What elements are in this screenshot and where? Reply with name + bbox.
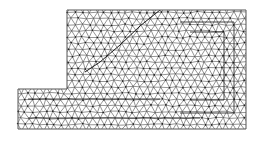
mesh-node — [208, 54, 210, 56]
mesh-node — [67, 111, 69, 113]
mesh-node — [139, 12, 141, 14]
mesh-node — [243, 31, 245, 33]
mesh-node — [68, 49, 70, 51]
mesh-node — [233, 99, 235, 101]
mesh-node — [146, 74, 148, 76]
mesh-node — [169, 124, 171, 126]
mesh-node — [139, 49, 141, 51]
mesh-node — [143, 68, 145, 70]
mesh-node — [117, 98, 119, 100]
mesh-node — [198, 50, 200, 52]
mesh-node — [122, 30, 124, 32]
mesh-node — [175, 111, 177, 113]
mesh-node — [77, 68, 79, 70]
mesh-node — [146, 61, 148, 63]
mesh-node — [176, 23, 178, 25]
mesh-node — [165, 79, 167, 81]
mesh-node — [178, 17, 180, 19]
mesh-node — [219, 36, 221, 38]
mesh-node — [225, 74, 227, 76]
mesh-node — [136, 31, 138, 33]
mesh-node — [201, 80, 203, 82]
mesh-node — [81, 112, 83, 114]
mesh-node — [103, 12, 105, 14]
mesh-node — [225, 123, 227, 125]
mesh-node — [197, 11, 199, 13]
mesh-node — [160, 74, 162, 76]
mesh-node — [53, 124, 55, 126]
mesh-node — [236, 92, 238, 94]
mesh-node — [110, 37, 112, 39]
mesh-node — [71, 68, 73, 70]
mesh-node — [197, 24, 199, 26]
mesh-node — [157, 92, 159, 94]
mesh-node — [92, 106, 94, 108]
mesh-node — [229, 80, 231, 82]
mesh-node — [205, 98, 207, 100]
mesh-node — [167, 11, 169, 13]
mesh-node — [215, 117, 217, 119]
mesh-node — [106, 93, 108, 95]
mesh-figure — [0, 0, 259, 142]
mesh-node — [222, 80, 224, 82]
mesh-node — [147, 36, 149, 38]
mesh-node — [179, 79, 181, 81]
mesh-node — [187, 17, 189, 19]
mesh-node — [103, 99, 105, 101]
mesh-node — [204, 87, 206, 89]
mesh-node — [24, 99, 26, 101]
mesh-node — [27, 105, 29, 107]
mesh-edge-path — [13, 5, 259, 142]
mesh-node — [182, 73, 184, 75]
mesh-node — [165, 42, 167, 44]
mesh-node — [143, 43, 145, 45]
mesh-node — [189, 24, 191, 26]
mesh-node — [192, 117, 194, 119]
mesh-node — [244, 42, 246, 44]
mesh-node — [229, 17, 231, 19]
mesh-node — [114, 67, 116, 69]
mesh-node — [132, 25, 134, 27]
mesh-node — [79, 54, 81, 56]
mesh-node — [161, 36, 163, 38]
mesh-node — [125, 99, 127, 101]
mesh-edges — [13, 5, 259, 142]
mesh-node — [190, 98, 192, 100]
mesh-node — [172, 18, 174, 20]
mesh-node — [27, 92, 29, 94]
mesh-node — [128, 92, 130, 94]
mesh-node — [139, 61, 141, 63]
mesh-node — [45, 98, 47, 100]
mesh-node — [128, 17, 130, 19]
mesh-node — [144, 81, 146, 83]
mesh-node — [99, 81, 101, 83]
mesh-node — [71, 93, 73, 95]
mesh-node — [225, 62, 227, 64]
mesh-node — [153, 12, 155, 14]
mesh-node — [204, 12, 206, 14]
mesh-node — [211, 25, 213, 27]
mesh-node — [198, 60, 200, 62]
mesh-node — [190, 86, 192, 88]
mesh-node — [237, 105, 239, 107]
mesh-node — [108, 42, 110, 44]
mesh-node — [214, 93, 216, 95]
mesh-node — [128, 68, 130, 70]
mesh-node — [136, 43, 138, 45]
mesh-node — [161, 23, 163, 25]
mesh-node — [183, 50, 185, 52]
mesh-node — [215, 31, 217, 33]
mesh-node — [212, 12, 214, 14]
mesh-node — [185, 55, 187, 57]
mesh-node — [124, 23, 126, 25]
mesh-node — [107, 55, 109, 57]
mesh-node — [104, 124, 106, 126]
mesh-node — [111, 12, 113, 14]
mesh-node — [169, 87, 171, 89]
mesh-node — [139, 74, 141, 76]
mesh-node — [211, 111, 213, 113]
mesh-node — [243, 80, 245, 82]
mesh-node — [167, 36, 169, 38]
mesh-node — [190, 111, 192, 113]
mesh-node — [70, 42, 72, 44]
